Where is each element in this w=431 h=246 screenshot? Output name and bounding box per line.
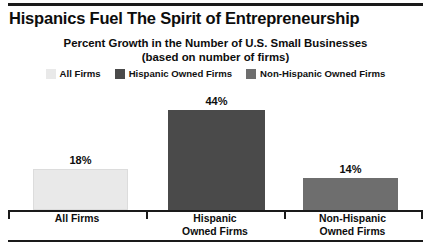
bar-value-label-all-firms: 18% [69,154,91,166]
category-label-hispanic-owned-firms-line-1: Hispanic [146,213,284,226]
category-label-hispanic-owned-firms: Hispanic Owned Firms [146,213,284,238]
chart-figure: Hispanics Fuel The Spirit of Entrepreneu… [0,0,431,246]
category-label-all-firms: All Firms [8,213,146,226]
category-label-non-hispanic-owned-firms-line-2: Owned Firms [284,226,421,239]
bottom-divider-rule [8,240,423,242]
bar-value-label-hispanic-owned-firms: 44% [205,95,227,107]
bar-value-label-non-hispanic-owned-firms: 14% [339,163,361,175]
category-label-non-hispanic-owned-firms-line-1: Non-Hispanic [284,213,421,226]
x-axis-line [8,210,423,212]
category-label-non-hispanic-owned-firms: Non-Hispanic Owned Firms [284,213,421,238]
plot-area: 18% 44% 14% All Firms Hispanic Owned Fir… [0,0,431,246]
bar-hispanic-owned-firms [168,110,265,210]
category-label-all-firms-line-1: All Firms [8,213,146,226]
bar-non-hispanic-owned-firms [303,178,398,210]
category-label-hispanic-owned-firms-line-2: Owned Firms [146,226,284,239]
x-axis-tick-right-edge [421,210,423,219]
bar-group-all-firms: 18% [33,169,128,210]
bar-all-firms [33,169,128,210]
bar-group-non-hispanic-owned-firms: 14% [303,178,398,210]
bar-group-hispanic-owned-firms: 44% [168,110,265,210]
